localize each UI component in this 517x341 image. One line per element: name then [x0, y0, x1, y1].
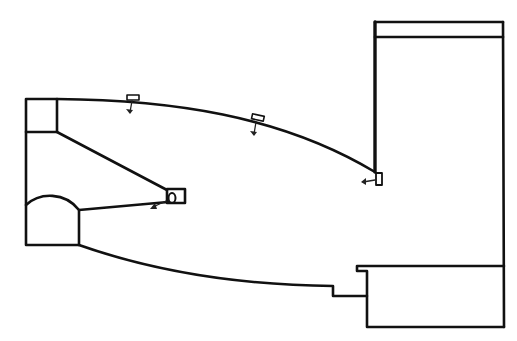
vent-1 [126, 95, 139, 114]
line-diagram [0, 0, 517, 341]
lower-curved-wall [79, 245, 367, 296]
top-left-box [26, 99, 57, 132]
right-tall-box [375, 22, 504, 327]
upper-curved-wall [57, 99, 375, 172]
vent-3 [361, 173, 382, 185]
arrow-left-icon [361, 178, 366, 185]
nozzle-opening [169, 193, 176, 203]
arched-box [26, 196, 79, 245]
arrow-down-icon [250, 131, 257, 136]
diagonal-wall [57, 132, 167, 190]
arrow-down-icon [126, 109, 133, 114]
bottom-right-box [357, 266, 504, 327]
